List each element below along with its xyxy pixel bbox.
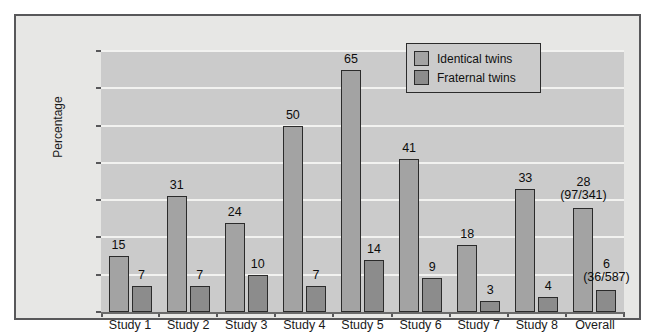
bar-value-label-study-8-fraternal: 4 [530, 280, 566, 293]
x-tick-label-study-1: Study 1 [101, 318, 159, 332]
bar-value-label-study-6-fraternal: 9 [414, 261, 450, 274]
y-tick-mark-0 [96, 311, 101, 313]
bar-value-label-study-8-identical: 33 [507, 172, 543, 185]
bar-value-label-study-1-identical: 15 [101, 239, 137, 252]
bar-value-label-study-1-fraternal: 7 [124, 269, 160, 282]
y-tick-mark-30 [96, 199, 101, 201]
bar-value-label-study-3-fraternal: 10 [240, 258, 276, 271]
bar-value-label-study-2-identical: 31 [159, 179, 195, 192]
bar-value-sublabel: (36/587) [573, 271, 639, 284]
bar-study-1-fraternal-twins [132, 286, 152, 312]
bar-value-label-study-2-fraternal: 7 [182, 269, 218, 282]
y-tick-mark-60 [96, 87, 101, 89]
bar-study-1-identical-twins [109, 256, 129, 312]
x-tick-label-study-5: Study 5 [333, 318, 391, 332]
bar-value-label-study-7-fraternal: 3 [472, 284, 508, 297]
x-tick-label-study-4: Study 4 [275, 318, 333, 332]
bar-study-8-identical-twins [515, 189, 535, 312]
legend-item-fraternal-twins: Fraternal twins [414, 68, 533, 87]
y-tick-mark-20 [96, 236, 101, 238]
legend-swatch-icon-fraternal [414, 70, 429, 85]
bar-study-7-identical-twins [457, 245, 477, 312]
bar-value-label-study-3-identical: 24 [217, 206, 253, 219]
gridline-60 [101, 87, 624, 89]
bar-study-6-fraternal-twins [422, 278, 442, 312]
bar-value-label-study-4-fraternal: 7 [298, 269, 334, 282]
y-tick-mark-10 [96, 274, 101, 276]
x-tick-label-study-3: Study 3 [217, 318, 275, 332]
bar-study-8-fraternal-twins [538, 297, 558, 312]
bar-value-label-overall-identical: 28(97/341) [550, 176, 616, 202]
bar-value-label-overall-fraternal: 6(36/587) [573, 258, 639, 284]
bar-study-6-identical-twins [399, 159, 419, 312]
chart-legend: Identical twins Fraternal twins [406, 43, 541, 93]
y-axis-title: Percentage [51, 67, 65, 187]
bar-study-5-fraternal-twins [364, 260, 384, 312]
figure-frame: 1573172410507651441918333428(97/341)6(36… [14, 14, 641, 320]
bar-study-3-fraternal-twins [248, 275, 268, 312]
legend-label-identical: Identical twins [437, 52, 512, 66]
x-tick-label-study-6: Study 6 [392, 318, 450, 332]
legend-swatch-icon-identical [414, 51, 429, 66]
bar-study-4-identical-twins [283, 126, 303, 312]
y-tick-mark-70 [96, 50, 101, 52]
bar-overall-fraternal-twins [596, 290, 616, 312]
y-tick-mark-50 [96, 125, 101, 127]
bar-value-label-study-5-identical: 65 [333, 53, 369, 66]
bar-value-label-study-4-identical: 50 [275, 109, 311, 122]
plot-area: 1573172410507651441918333428(97/341)6(36… [101, 51, 624, 312]
bar-value-label-study-7-identical: 18 [449, 228, 485, 241]
x-tick-label-study-8: Study 8 [508, 318, 566, 332]
x-axis-line [101, 312, 624, 314]
x-tick-label-overall: Overall [566, 318, 624, 332]
bar-study-2-identical-twins [167, 196, 187, 312]
bar-study-7-fraternal-twins [480, 301, 500, 312]
gridline-40 [101, 162, 624, 164]
legend-label-fraternal: Fraternal twins [437, 71, 516, 85]
bar-study-4-fraternal-twins [306, 286, 326, 312]
bar-study-2-fraternal-twins [190, 286, 210, 312]
bar-value-label-study-5-fraternal: 14 [356, 243, 392, 256]
x-tick-label-study-7: Study 7 [450, 318, 508, 332]
gridline-50 [101, 125, 624, 127]
y-tick-mark-40 [96, 162, 101, 164]
x-tick-label-study-2: Study 2 [159, 318, 217, 332]
legend-item-identical-twins: Identical twins [414, 49, 533, 68]
bar-value-label-study-6-identical: 41 [391, 142, 427, 155]
chart-page: 1573172410507651441918333428(97/341)6(36… [0, 0, 655, 334]
bar-study-5-identical-twins [341, 70, 361, 312]
bar-value-sublabel: (97/341) [550, 189, 616, 202]
